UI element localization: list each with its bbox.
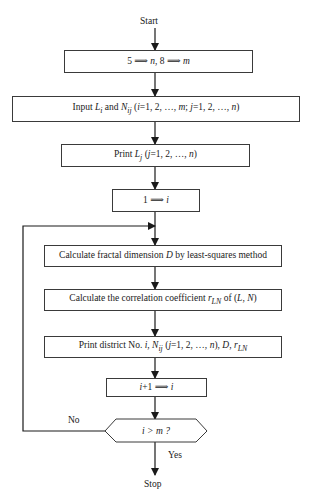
- step-calc-r: Calculate the correlation coefficient rL…: [44, 289, 282, 311]
- step-print-district: Print district No. i, Nij (j=1, 2, …, n)…: [44, 336, 282, 358]
- step-calc-d: Calculate fractal dimension D by least-s…: [44, 245, 282, 267]
- start-label: Start: [140, 17, 158, 27]
- step-print-l-text: Print Lj (j=1, 2, …, n): [114, 150, 197, 162]
- yes-label: Yes: [168, 451, 182, 461]
- step-init-text: 5 ⟹ n, 8 ⟹ m: [127, 57, 190, 67]
- step-set-i: 1 ⟹ i: [112, 189, 200, 212]
- step-input: Input Li and Nij (i=1, 2, …, m; j=1, 2, …: [12, 96, 300, 122]
- step-calc-r-text: Calculate the correlation coefficient rL…: [69, 294, 256, 306]
- step-calc-d-text: Calculate fractal dimension D by least-s…: [59, 251, 267, 261]
- decision-text: i > m ?: [105, 419, 207, 442]
- step-increment-text: i+1 ⟹ i: [140, 383, 174, 393]
- step-init: 5 ⟹ n, 8 ⟹ m: [64, 50, 253, 73]
- step-increment: i+1 ⟹ i: [106, 378, 207, 397]
- step-print-district-text: Print district No. i, Nij (j=1, 2, …, n)…: [79, 341, 248, 353]
- step-print-l: Print Lj (j=1, 2, …, n): [61, 144, 250, 167]
- stop-label: Stop: [144, 480, 161, 490]
- step-set-i-text: 1 ⟹ i: [143, 196, 169, 206]
- step-input-text: Input Li and Nij (i=1, 2, …, m; j=1, 2, …: [72, 103, 239, 115]
- no-label: No: [68, 416, 80, 426]
